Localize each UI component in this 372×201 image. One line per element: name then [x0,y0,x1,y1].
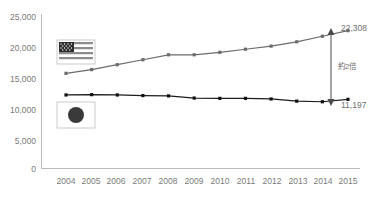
x-tick-label: 2012 [263,176,282,186]
data-point-marker [141,58,144,61]
flag-japan-icon [57,102,95,128]
y-tick-label: 15,000 [10,74,36,84]
series-layer [64,29,349,103]
x-tick-label: 2010 [211,176,230,186]
data-point-marker [193,53,196,56]
x-tick-label: 2004 [57,176,76,186]
ratio-annotation: 約2倍 [328,28,358,106]
x-tick-label: 2005 [82,176,101,186]
y-axis-tick-labels: 25,000 20,000 15,000 10,000 5,000 0 [10,12,36,174]
y-tick-label: 5,000 [15,136,37,146]
x-axis-tick-labels: 2004 2005 2006 2007 2008 2009 2010 2011 … [57,176,358,186]
x-tick-label: 2015 [339,176,358,186]
data-point-marker [116,93,119,96]
x-tick-label: 2013 [289,176,308,186]
x-tick-label: 2008 [159,176,178,186]
data-point-marker [295,40,298,43]
data-point-marker [193,96,196,99]
data-point-marker [64,72,67,75]
data-point-marker [218,51,221,54]
y-tick-label: 10,000 [10,105,36,115]
series-jp [64,93,349,103]
data-point-marker [141,94,144,97]
data-point-marker [295,100,298,103]
data-point-marker [321,35,324,38]
x-tick-label: 2011 [237,176,256,186]
y-tick-label: 25,000 [10,12,36,22]
y-tick-label: 20,000 [10,43,36,53]
series-line [66,31,348,74]
x-tick-label: 2006 [107,176,126,186]
line-chart: 25,000 20,000 15,000 10,000 5,000 0 2004… [0,0,372,201]
data-point-marker [244,48,247,51]
us-end-value-label: 22,308 [341,23,367,33]
y-tick-label: 0 [31,164,36,174]
data-point-marker [90,93,93,96]
jp-end-value-label: 11,197 [341,100,367,110]
data-point-marker [218,97,221,100]
data-point-marker [116,63,119,66]
arrow-head-down-icon [328,99,335,106]
ratio-annotation-label: 約2倍 [338,61,357,71]
x-tick-label: 2014 [314,176,333,186]
data-point-marker [90,68,93,71]
data-point-marker [167,94,170,97]
x-tick-label: 2007 [133,176,152,186]
data-point-marker [244,97,247,100]
chart-container: 25,000 20,000 15,000 10,000 5,000 0 2004… [0,0,372,201]
flag-usa-icon [57,40,95,64]
arrow-head-up-icon [328,28,335,35]
series-line [66,95,348,102]
data-point-marker [269,45,272,48]
data-point-marker [64,93,67,96]
data-point-marker [321,100,324,103]
series-us [64,29,349,75]
data-point-marker [167,53,170,56]
x-tick-label: 2009 [185,176,204,186]
data-point-marker [269,97,272,100]
